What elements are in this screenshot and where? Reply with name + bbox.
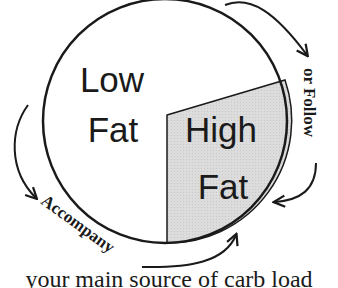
follow-arrow-top-icon	[225, 2, 307, 55]
fat-pie-diagram: Low Fat High Fat or Follow Accompany	[0, 0, 338, 288]
caption-text: your main source of carb load	[0, 262, 338, 288]
low-fat-label-line1: Low	[80, 60, 145, 99]
high-fat-label-line2: Fat	[198, 167, 249, 206]
accompany-arrow-left-icon	[15, 105, 36, 198]
high-fat-slice	[167, 80, 292, 243]
low-fat-label-line2: Fat	[88, 110, 139, 149]
accompany-label: Accompany	[38, 191, 119, 257]
high-fat-label-line1: High	[185, 110, 257, 149]
or-follow-label: or Follow	[300, 68, 319, 138]
